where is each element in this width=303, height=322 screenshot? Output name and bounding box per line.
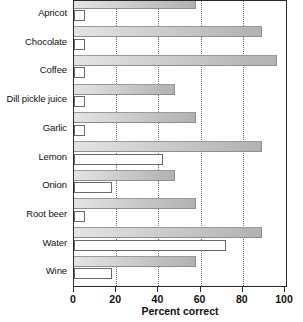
bar-open (74, 211, 85, 222)
bar-open (74, 268, 112, 279)
category-label: Water (0, 238, 67, 248)
bar-open (74, 240, 226, 251)
x-tick-20 (115, 287, 116, 292)
x-tick-label-100: 100 (275, 293, 293, 305)
category-label: Lemon (0, 152, 67, 162)
category-axis: ApricotChocolateCoffeeDill pickle juiceG… (0, 0, 70, 287)
category-label: Chocolate (0, 37, 67, 47)
bar-open (74, 10, 85, 21)
category-label: Coffee (0, 65, 67, 75)
category-label: Garlic (0, 123, 67, 133)
x-tick-label-40: 40 (152, 293, 164, 305)
bar-open (74, 154, 163, 165)
bar-open (74, 67, 85, 78)
bar-open (74, 39, 85, 50)
category-label: Root beer (0, 209, 67, 219)
category-label: Apricot (0, 8, 67, 18)
bar-shaded (74, 0, 196, 9)
bar-shaded (74, 84, 175, 95)
x-tick-label-60: 60 (194, 293, 206, 305)
bar-open (74, 125, 85, 136)
bar-shaded (74, 198, 196, 209)
bar-shaded (74, 170, 175, 181)
bar-shaded (74, 112, 196, 123)
plot-area (73, 0, 287, 287)
x-tick-0 (73, 287, 74, 292)
bar-open (74, 182, 112, 193)
bar-shaded (74, 26, 262, 37)
x-tick-label-0: 0 (70, 293, 76, 305)
category-label: Onion (0, 180, 67, 190)
bar-shaded (74, 55, 277, 66)
bar-shaded (74, 227, 262, 238)
x-tick-label-80: 80 (236, 293, 248, 305)
x-tick-100 (284, 287, 285, 292)
bar-shaded (74, 141, 262, 152)
x-tick-label-20: 20 (109, 293, 121, 305)
x-tick-60 (200, 287, 201, 292)
bar-shaded (74, 256, 196, 267)
category-label: Dill pickle juice (0, 94, 67, 104)
x-axis-label: Percent correct (73, 305, 287, 318)
bar-chart: ApricotChocolateCoffeeDill pickle juiceG… (0, 0, 303, 322)
bar-open (74, 96, 85, 107)
x-tick-40 (157, 287, 158, 292)
x-tick-80 (242, 287, 243, 292)
category-label: Wine (0, 266, 67, 276)
